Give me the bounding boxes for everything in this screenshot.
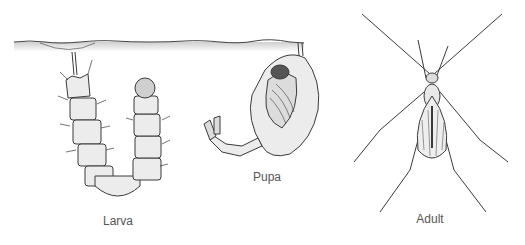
stage-label-larva: Larva	[103, 214, 133, 228]
mosquito-life-cycle-diagram: Larva Pupa Adult	[0, 0, 525, 245]
stage-label-pupa: Pupa	[253, 170, 281, 184]
stage-label-adult: Adult	[416, 212, 443, 226]
water-surface	[14, 40, 304, 52]
larva-illustration	[58, 52, 170, 196]
illustration	[0, 0, 525, 245]
pupa-illustration	[204, 43, 319, 156]
adult-illustration	[354, 14, 508, 212]
